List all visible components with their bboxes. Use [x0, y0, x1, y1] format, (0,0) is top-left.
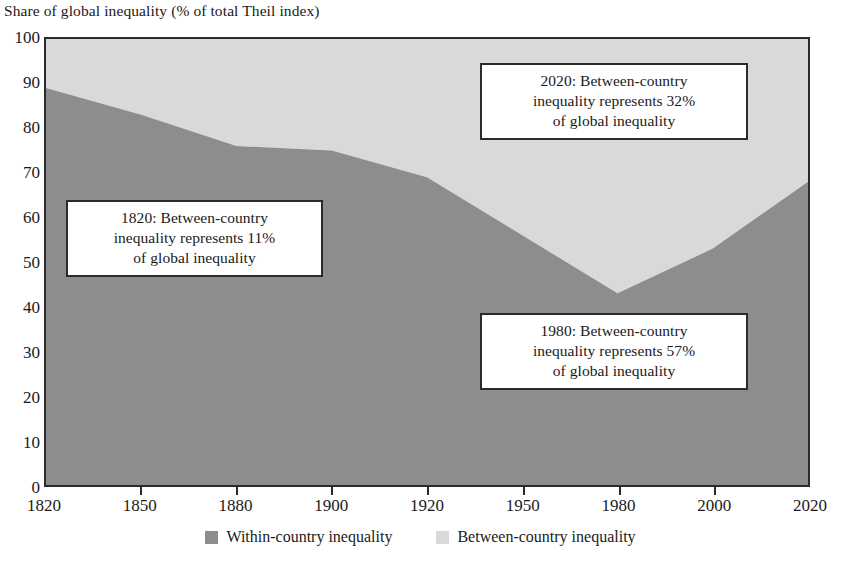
x-tick-mark-1850 [140, 487, 142, 495]
annotation-1980-line2: inequality represents 57% [492, 341, 736, 361]
y-tick-label-40: 40 [4, 299, 40, 316]
y-tick-label-60: 60 [4, 209, 40, 226]
annotation-box-1980: 1980: Between-country inequality represe… [480, 313, 748, 390]
x-tick-mark-1980 [619, 487, 621, 495]
x-tick-label-1900: 1900 [291, 496, 371, 516]
annotation-1980-line1: 1980: Between-country [492, 321, 736, 341]
legend-swatch-icon [205, 531, 218, 544]
y-tick-label-0: 0 [4, 479, 40, 496]
y-tick-label-70: 70 [4, 164, 40, 181]
x-tick-mark-1900 [331, 487, 333, 495]
y-tick-label-100: 100 [4, 29, 40, 46]
x-tick-mark-1950 [523, 487, 525, 495]
annotation-2020-line3: of global inequality [492, 111, 736, 131]
y-tick-label-10: 10 [4, 434, 40, 451]
chart-legend: Within-country inequalityBetween-country… [0, 528, 841, 546]
x-tick-label-2000: 2000 [674, 496, 754, 516]
x-tick-label-1980: 1980 [579, 496, 659, 516]
y-tick-label-20: 20 [4, 389, 40, 406]
x-tick-mark-1880 [236, 487, 238, 495]
legend-swatch-icon [436, 531, 449, 544]
x-tick-label-2020: 2020 [770, 496, 841, 516]
x-tick-label-1950: 1950 [483, 496, 563, 516]
y-tick-label-50: 50 [4, 254, 40, 271]
annotation-box-1820: 1820: Between-country inequality represe… [66, 200, 323, 277]
annotation-1980-line3: of global inequality [492, 361, 736, 381]
legend-label: Within-country inequality [226, 528, 392, 546]
y-tick-label-30: 30 [4, 344, 40, 361]
y-tick-label-80: 80 [4, 119, 40, 136]
annotation-2020-line1: 2020: Between-country [492, 71, 736, 91]
legend-entry-within-country[interactable]: Within-country inequality [205, 528, 392, 546]
legend-entry-between-country[interactable]: Between-country inequality [436, 528, 635, 546]
annotation-1820-line1: 1820: Between-country [78, 208, 311, 228]
annotation-box-2020: 2020: Between-country inequality represe… [480, 63, 748, 140]
annotation-1820-line3: of global inequality [78, 248, 311, 268]
chart-figure: Share of global inequality (% of total T… [0, 0, 841, 566]
annotation-1820-line2: inequality represents 11% [78, 228, 311, 248]
x-tick-mark-2000 [714, 487, 716, 495]
x-tick-label-1920: 1920 [387, 496, 467, 516]
x-tick-label-1880: 1880 [196, 496, 276, 516]
annotation-2020-line2: inequality represents 32% [492, 91, 736, 111]
x-tick-label-1850: 1850 [100, 496, 180, 516]
legend-label: Between-country inequality [457, 528, 635, 546]
y-tick-label-90: 90 [4, 74, 40, 91]
x-tick-mark-1920 [427, 487, 429, 495]
y-axis-tick-labels: 0102030405060708090100 [0, 0, 40, 566]
x-tick-label-1820: 1820 [4, 496, 84, 516]
chart-axis-title: Share of global inequality (% of total T… [4, 2, 320, 20]
